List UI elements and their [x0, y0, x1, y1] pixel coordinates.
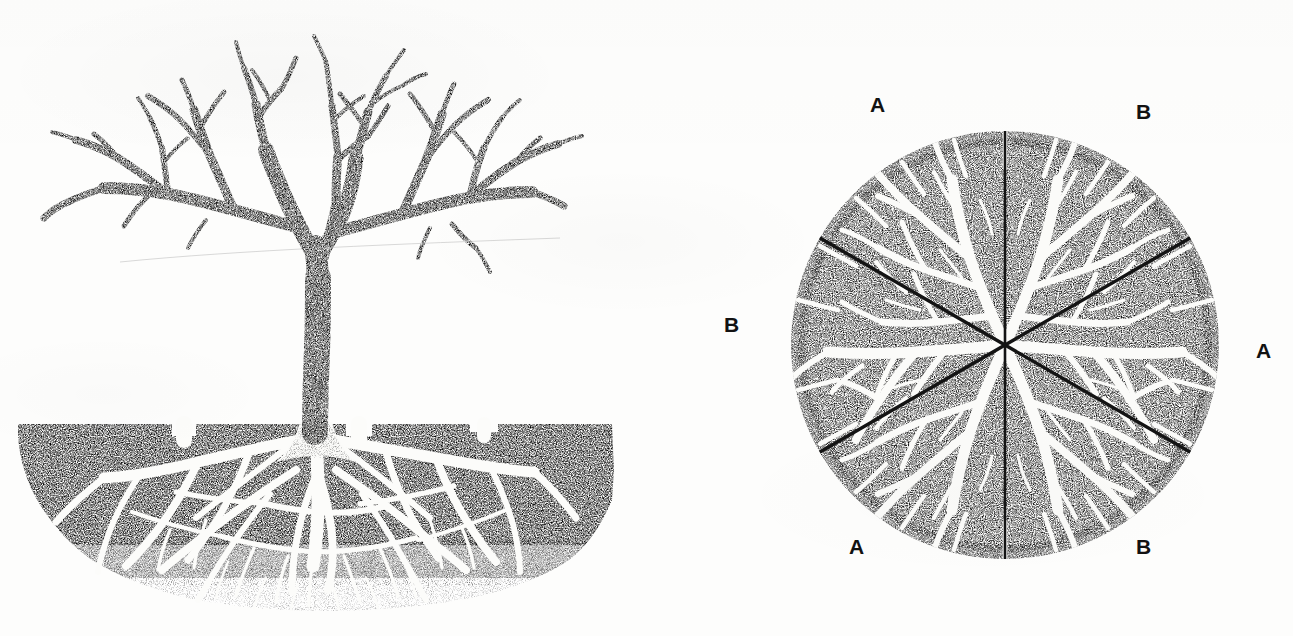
sector-label-upper-right: B	[1136, 101, 1151, 122]
circular-root-cross-section: A B B A A B	[690, 0, 1293, 636]
tree-with-roots-illustration	[0, 0, 640, 636]
figure-sheet: A B B A A B	[0, 0, 1293, 636]
sector-label-lower-left: A	[849, 536, 864, 557]
sector-label-right: A	[1256, 340, 1271, 361]
sector-label-upper-left: A	[870, 94, 885, 115]
cross-section-disc	[791, 131, 1219, 559]
sector-label-lower-right: B	[1136, 536, 1151, 557]
tree-canopy-and-trunk	[44, 36, 582, 432]
scan-streak	[120, 238, 560, 262]
sector-label-left: B	[724, 314, 739, 335]
